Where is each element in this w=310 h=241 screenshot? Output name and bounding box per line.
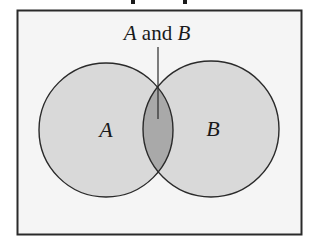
intersection-label: A and B — [122, 21, 191, 45]
set-a-label: A — [97, 117, 113, 142]
venn-diagram: A and B A B — [0, 0, 310, 241]
set-b-label: B — [206, 116, 219, 141]
